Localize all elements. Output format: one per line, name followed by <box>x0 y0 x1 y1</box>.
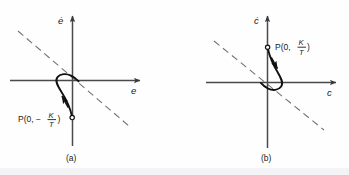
y-axis-label-b: ċ <box>254 15 259 26</box>
point-marker-b <box>265 45 269 49</box>
bottom-band <box>0 168 349 175</box>
y-axis-label-a-text: ė <box>58 15 63 26</box>
phase-plane-figure: ė e P(0, − K T ) (a) <box>0 0 349 175</box>
figure-root: ė e P(0, − K T ) (a) <box>0 0 349 175</box>
point-label-a-prefix: P(0, − <box>18 114 41 124</box>
trajectory-b <box>261 49 282 90</box>
point-label-b-suffix: ) <box>307 42 310 52</box>
x-axis-label-b: c <box>327 87 332 98</box>
point-label-a-suffix: ) <box>58 114 61 124</box>
point-marker-a <box>70 115 74 119</box>
point-label-a-denominator: T <box>49 120 55 129</box>
y-axis-label-a: ė <box>58 15 63 26</box>
x-axis-label-a: e <box>131 85 136 96</box>
point-label-a: P(0, − K T ) <box>18 111 61 130</box>
caption-a: (a) <box>66 153 77 163</box>
caption-b: (b) <box>261 153 272 163</box>
point-label-a-numerator: K <box>49 111 55 120</box>
point-label-b-prefix: P(0, <box>275 42 291 52</box>
panel-b: ċ c P(0, K T ) (b) <box>206 15 336 163</box>
switching-line-a <box>18 31 129 126</box>
point-label-b-numerator: K <box>299 38 305 47</box>
point-label-b: P(0, K T ) <box>275 38 310 57</box>
point-label-b-denominator: T <box>299 48 305 57</box>
panel-a: ė e P(0, − K T ) (a) <box>10 15 140 163</box>
